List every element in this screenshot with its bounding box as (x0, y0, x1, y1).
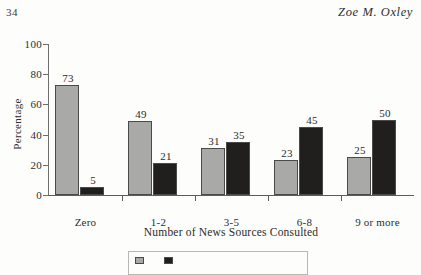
bar: 25 (347, 157, 371, 195)
bar-value-label: 49 (128, 108, 154, 120)
y-tick-mark (43, 74, 48, 75)
bar-group: 4921 (122, 44, 195, 195)
legend-swatch-series-1 (135, 257, 144, 264)
bar: 23 (274, 160, 298, 195)
running-head: 34 Zoe M. Oxley (0, 6, 421, 22)
legend-entries (135, 257, 177, 264)
plot-axes: 7354921313523452550 Zero1-23-56-89 or mo… (48, 44, 414, 196)
bar: 21 (153, 163, 177, 195)
bar: 50 (372, 120, 396, 196)
bar: 31 (201, 148, 225, 195)
y-tick-label: 100 (8, 38, 42, 50)
bar-group: 2550 (341, 44, 414, 195)
author-name: Zoe M. Oxley (338, 5, 413, 20)
y-tick-mark (43, 165, 48, 166)
bar: 49 (128, 121, 152, 195)
bar-value-label: 25 (347, 144, 373, 156)
y-tick-mark (43, 104, 48, 105)
bar: 73 (55, 85, 79, 195)
y-tick-mark (43, 195, 48, 196)
bar-chart-figure: Percentage 100806040200 7354921313523452… (0, 30, 421, 262)
y-tick-label: 60 (8, 98, 42, 110)
bar-group: 735 (49, 44, 122, 195)
bar-value-label: 31 (201, 135, 227, 147)
bar-value-label: 35 (226, 129, 252, 141)
bar-group: 3135 (195, 44, 268, 195)
y-tick-label: 80 (8, 68, 42, 80)
bar-value-label: 5 (80, 174, 106, 186)
y-tick-label: 0 (8, 189, 42, 201)
bar-group: 2345 (268, 44, 341, 195)
chart-legend (128, 251, 308, 275)
y-tick-mark (43, 135, 48, 136)
legend-swatch-series-2 (164, 257, 173, 264)
bar-value-label: 23 (274, 147, 300, 159)
x-axis-title: Number of News Sources Consulted (48, 226, 414, 238)
x-tick-mark (268, 196, 269, 201)
y-tick-label: 40 (8, 129, 42, 141)
x-tick-mark (341, 196, 342, 201)
x-axis-line (48, 195, 414, 196)
y-tick-mark (43, 44, 48, 45)
bars-container: 7354921313523452550 (49, 44, 414, 195)
page-number: 34 (6, 6, 18, 18)
bar-value-label: 50 (372, 107, 398, 119)
bar: 35 (226, 142, 250, 195)
bar-value-label: 21 (153, 150, 179, 162)
bar: 5 (80, 187, 104, 195)
y-tick-label: 20 (8, 159, 42, 171)
y-axis-tick-labels: 100806040200 (6, 30, 42, 200)
x-tick-mark (122, 196, 123, 201)
x-tick-mark (195, 196, 196, 201)
bar-value-label: 73 (55, 72, 81, 84)
bar: 45 (299, 127, 323, 195)
bar-value-label: 45 (299, 114, 325, 126)
